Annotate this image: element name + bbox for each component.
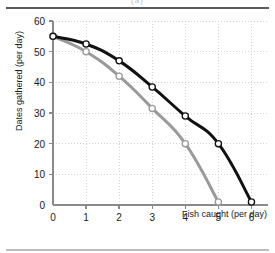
data-point-marker	[149, 105, 155, 111]
figure-panel: (a) 01020304050600123456 Dates gathered …	[0, 0, 275, 253]
data-point-marker	[215, 141, 221, 147]
data-point-marker	[83, 41, 89, 47]
y-tick-label: 10	[34, 169, 46, 180]
y-tick-label: 20	[34, 139, 46, 150]
x-axis-title: Fish caught (per day)	[182, 209, 267, 219]
top-divider-rule	[6, 7, 269, 9]
data-point-marker	[116, 73, 122, 79]
series-inner-frontier	[50, 33, 222, 205]
y-tick-label: 0	[39, 200, 45, 211]
x-tick-label: 3	[149, 212, 155, 223]
x-tick-label: 1	[83, 212, 89, 223]
data-point-marker	[149, 84, 155, 90]
y-tick-label: 30	[34, 108, 46, 119]
data-point-marker	[182, 141, 188, 147]
tick-marks: 01020304050600123456	[34, 16, 255, 223]
y-tick-label: 60	[34, 16, 46, 27]
data-point-marker	[248, 199, 254, 205]
data-point-marker	[50, 33, 56, 39]
y-tick-label: 50	[34, 47, 46, 58]
line-chart: 01020304050600123456	[0, 10, 275, 228]
y-tick-label: 40	[34, 77, 46, 88]
data-point-marker	[182, 113, 188, 119]
bottom-divider-rule	[6, 249, 269, 251]
x-tick-label: 0	[50, 212, 56, 223]
series-outer-frontier	[50, 33, 255, 205]
x-tick-label: 2	[116, 212, 122, 223]
y-axis-title: Dates gathered (per day)	[14, 6, 24, 156]
data-point-marker	[83, 49, 89, 55]
data-point-marker	[215, 199, 221, 205]
data-point-marker	[116, 58, 122, 64]
figure-caption-top: (a)	[0, 0, 275, 5]
chart-container: 01020304050600123456 Dates gathered (per…	[0, 10, 275, 228]
